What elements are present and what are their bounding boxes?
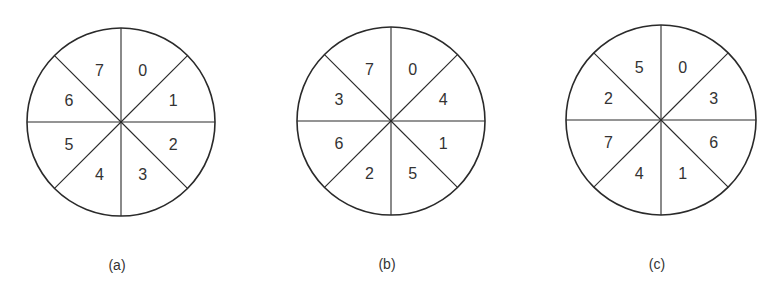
sector-label: 3 [334, 91, 343, 108]
sector-label: 0 [408, 61, 417, 78]
sector-divider [391, 55, 457, 121]
sector-label: 0 [138, 62, 147, 79]
circle-diagram-b: 0 4 1 5 2 6 3 7 (b) [297, 27, 485, 272]
sector-dividers [566, 25, 756, 215]
sector-label: 7 [604, 134, 613, 151]
sector-divider [55, 122, 121, 188]
sector-divider [661, 120, 728, 187]
sector-label: 4 [439, 91, 448, 108]
sector-label: 5 [408, 165, 417, 182]
sector-divider [325, 55, 391, 121]
diagram-caption: (b) [378, 256, 395, 272]
circle-diagram-c: 0 3 6 1 4 7 2 5 (c) [566, 25, 756, 272]
sector-divider [325, 121, 391, 187]
sector-label: 7 [95, 62, 104, 79]
sector-divider [594, 120, 661, 187]
sector-label: 3 [138, 166, 147, 183]
sector-label: 1 [678, 165, 687, 182]
diagram-caption: (c) [649, 256, 665, 272]
sector-label: 1 [169, 92, 178, 109]
sector-label: 1 [439, 135, 448, 152]
circle-diagram-a: 0 1 2 3 4 5 6 7 (a) [27, 28, 215, 273]
sector-dividers [27, 28, 215, 216]
sector-label: 6 [64, 92, 73, 109]
sector-label: 5 [64, 136, 73, 153]
sector-label: 5 [635, 59, 644, 76]
sector-divider [594, 53, 661, 120]
sector-label: 7 [365, 61, 374, 78]
sector-label: 4 [95, 166, 104, 183]
sector-divider [661, 53, 728, 120]
sector-label: 2 [604, 90, 613, 107]
figure-canvas: 0 1 2 3 4 5 6 7 (a) 0 4 1 5 2 6 3 7 (b) … [0, 0, 776, 294]
sector-label: 6 [334, 135, 343, 152]
sector-label: 0 [678, 59, 687, 76]
sector-label: 2 [365, 165, 374, 182]
sector-label: 4 [635, 165, 644, 182]
sector-label: 2 [169, 136, 178, 153]
sector-label: 6 [709, 134, 718, 151]
sector-dividers [297, 27, 485, 215]
sector-label: 3 [709, 90, 718, 107]
sector-divider [55, 56, 121, 122]
sector-divider [121, 122, 187, 188]
sector-divider [391, 121, 457, 187]
diagram-caption: (a) [108, 257, 125, 273]
sector-divider [121, 56, 187, 122]
